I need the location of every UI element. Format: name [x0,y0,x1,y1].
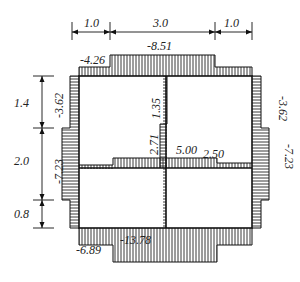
top-dimension: 1.0 3.0 1.0 [72,16,252,40]
span-label-right: 1.0 [224,16,239,30]
height-label-lower: 0.8 [14,207,29,221]
span-label-center: 3.0 [152,16,168,30]
value-left-upper: -3.62 [52,93,66,118]
value-right-upper: -3.62 [276,96,290,121]
value-beam-center: 5.00 [176,143,197,157]
value-bottom-outer: -6.89 [76,243,101,257]
frame-structure [79,76,252,228]
value-left-lower: -7.23 [52,159,66,184]
value-bottom-center: -13.78 [120,233,151,247]
value-beam-right: 2.50 [203,147,224,161]
value-top-center: -8.51 [147,39,172,53]
right-column-moment [252,76,269,228]
value-right-lower: -7.23 [282,144,296,169]
bottom-beam-moment [79,228,252,262]
value-top-outer: -4.26 [80,53,105,67]
frame-diagram: 1.0 3.0 1.0 1.4 2.0 0.8 [0,0,300,282]
value-column-lower: 2.71 [147,134,161,155]
height-label-middle: 2.0 [14,154,29,168]
span-label-left: 1.0 [84,16,99,30]
left-dimension: 1.4 2.0 0.8 [14,76,54,228]
height-label-upper: 1.4 [14,96,29,110]
value-column-upper: 1.35 [149,98,163,119]
